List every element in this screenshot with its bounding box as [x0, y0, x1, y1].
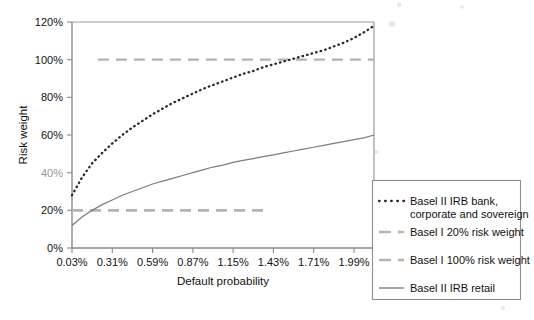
y-tick-label-40: 40%: [41, 167, 63, 179]
data-series-group: [72, 26, 374, 226]
x-tick-label-4: 1.15%: [217, 256, 248, 268]
series-irb-retail-line: [72, 135, 374, 225]
y-tick-label-20: 20%: [41, 204, 63, 216]
legend-label-irb-bank-line2: corporate and sovereign: [410, 208, 529, 220]
x-tick-label-2: 0.59%: [137, 256, 168, 268]
y-axis-ticks: 120% 100% 80% 60% 40% 20% 0%: [35, 16, 72, 254]
legend-label-irb-bank-line1: Basel II IRB bank,: [410, 195, 498, 207]
legend-label-basel1-100: Basel I 100% risk weight: [410, 254, 530, 266]
x-tick-label-1: 0.31%: [97, 256, 128, 268]
x-tick-label-5: 1.43%: [258, 256, 289, 268]
x-tick-label-6: 1.71%: [298, 256, 329, 268]
y-axis-title: Risk weight: [17, 105, 29, 165]
series-irb-bank-line: [72, 26, 374, 196]
y-tick-label-0: 0%: [47, 242, 63, 254]
x-tick-label-3: 0.87%: [177, 256, 208, 268]
legend-label-basel1-20: Basel I 20% risk weight: [410, 226, 524, 238]
chart-canvas: 120% 100% 80% 60% 40% 20% 0% 0.03% 0.31%…: [0, 0, 534, 320]
x-tick-label-0: 0.03%: [56, 256, 87, 268]
legend: Basel II IRB bank, corporate and soverei…: [373, 181, 530, 300]
legend-label-irb-retail: Basel II IRB retail: [410, 282, 495, 294]
y-tick-label-120: 120%: [35, 16, 63, 28]
x-axis-ticks: 0.03% 0.31% 0.59% 0.87% 1.15% 1.43% 1.71…: [56, 248, 369, 268]
y-tick-label-60: 60%: [41, 129, 63, 141]
x-tick-label-7: 1.99%: [338, 256, 369, 268]
plot-frame: [72, 22, 374, 248]
y-tick-label-80: 80%: [41, 91, 63, 103]
chart-figure: 120% 100% 80% 60% 40% 20% 0% 0.03% 0.31%…: [0, 0, 534, 320]
y-tick-label-100: 100%: [35, 54, 63, 66]
x-axis-title: Default probability: [177, 275, 269, 287]
